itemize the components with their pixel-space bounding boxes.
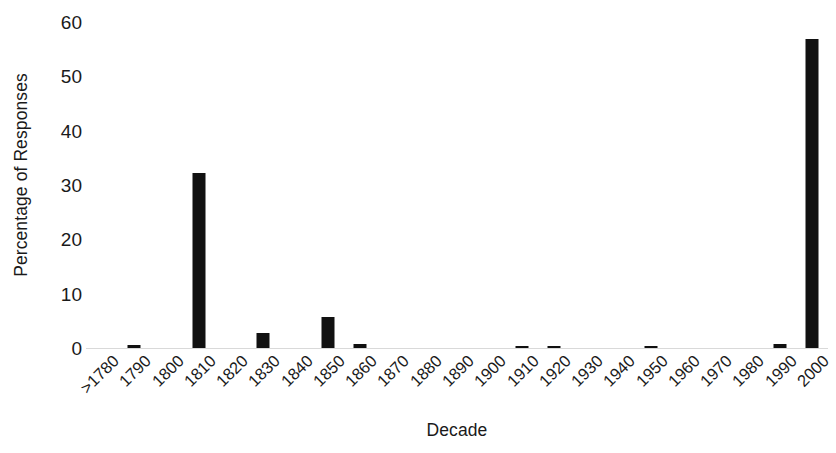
bar-slot <box>570 22 602 348</box>
bar-slot <box>312 22 344 348</box>
bar-slot <box>667 22 699 348</box>
bar-slot <box>118 22 150 348</box>
x-axis-tick-labels: >178017901800181018201830184018501860187… <box>86 350 828 410</box>
y-axis-tick-label: 40 <box>38 122 82 141</box>
bar <box>321 317 334 349</box>
bar-slot <box>151 22 183 348</box>
y-axis-tick-label: 0 <box>38 339 82 358</box>
bar-slot <box>441 22 473 348</box>
bar-slot <box>538 22 570 348</box>
bar <box>805 39 818 348</box>
bar-slot <box>602 22 634 348</box>
y-axis-tick-label: 10 <box>38 285 82 304</box>
bar-slot <box>86 22 118 348</box>
bar-slot <box>247 22 279 348</box>
bar-slot <box>763 22 795 348</box>
plot-area <box>86 22 828 348</box>
bar-slot <box>376 22 408 348</box>
bar-slot <box>634 22 666 348</box>
bar-slot <box>505 22 537 348</box>
bar-slot <box>344 22 376 348</box>
y-axis-tick-label: 20 <box>38 230 82 249</box>
bar-slot <box>731 22 763 348</box>
bar-slot <box>699 22 731 348</box>
bar <box>257 333 270 348</box>
y-axis-tick-label: 50 <box>38 67 82 86</box>
x-axis-baseline <box>86 348 828 349</box>
y-axis-tick-labels: 0102030405060 <box>0 0 82 453</box>
bar-chart-figure: Percentage of Responses 0102030405060 >1… <box>0 0 836 453</box>
bar-slot <box>473 22 505 348</box>
x-axis-title: Decade <box>86 420 828 441</box>
bar <box>192 173 205 348</box>
bar-slot <box>409 22 441 348</box>
y-axis-tick-label: 30 <box>38 176 82 195</box>
bar-slot <box>215 22 247 348</box>
bar-slot <box>183 22 215 348</box>
bar-slot <box>280 22 312 348</box>
bar-slot <box>796 22 828 348</box>
y-axis-tick-label: 60 <box>38 13 82 32</box>
